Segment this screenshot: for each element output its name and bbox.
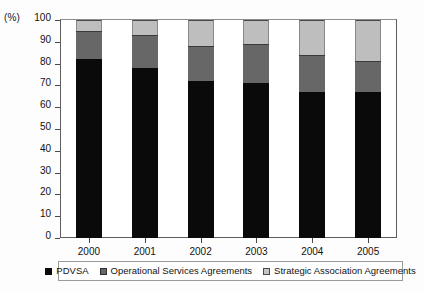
x-axis-tick-label: 2002 xyxy=(189,246,211,257)
bar-segment xyxy=(76,31,102,59)
legend-item[interactable]: Strategic Association Agreements xyxy=(263,266,416,276)
y-axis: 0102030405060708090100 xyxy=(0,0,60,238)
y-axis-tick-label: 10 xyxy=(40,209,51,219)
y-axis-tick-label: 60 xyxy=(40,100,51,110)
y-axis-tick-label: 50 xyxy=(40,122,51,132)
x-axis-tick-label: 2004 xyxy=(301,246,323,257)
bar-group xyxy=(229,20,285,238)
bar-segment xyxy=(76,59,102,238)
x-axis-tick-mark xyxy=(89,238,90,243)
y-axis-tick-label: 80 xyxy=(40,57,51,67)
legend-label: Operational Services Agreements xyxy=(111,266,253,276)
bar-group xyxy=(61,20,117,238)
bar-segment xyxy=(188,81,214,238)
bar-segment xyxy=(188,46,214,81)
stacked-bar-chart: (%) 0102030405060708090100 2000200120022… xyxy=(0,0,424,293)
y-axis-tick-label: 70 xyxy=(40,78,51,88)
bar-segment xyxy=(76,20,102,31)
y-axis-tick-label: 20 xyxy=(40,187,51,197)
y-axis-tick-label: 90 xyxy=(40,35,51,45)
y-axis-tick-label: 30 xyxy=(40,166,51,176)
bar-segment xyxy=(243,83,269,238)
bars-layer xyxy=(61,20,396,238)
bar-segment xyxy=(132,68,158,238)
legend-label: Strategic Association Agreements xyxy=(274,266,416,276)
bar-group xyxy=(173,20,229,238)
y-axis-tick-label: 100 xyxy=(34,13,51,23)
bar-segment xyxy=(299,55,325,92)
x-axis-tick-mark xyxy=(145,238,146,243)
x-axis-tick-label: 2005 xyxy=(357,246,379,257)
bar-segment xyxy=(355,20,381,61)
x-axis-tick-label: 2000 xyxy=(78,246,100,257)
bar-segment xyxy=(132,35,158,68)
x-axis-tick-mark xyxy=(312,238,313,243)
bar-segment xyxy=(188,20,214,46)
legend-swatch-icon xyxy=(263,268,270,275)
legend-swatch-icon xyxy=(100,268,107,275)
legend-label: PDVSA xyxy=(56,266,88,276)
bar-segment xyxy=(243,44,269,83)
x-axis: 200020012002200320042005 xyxy=(60,238,398,262)
bar-segment xyxy=(355,61,381,92)
legend-item[interactable]: PDVSA xyxy=(45,266,88,276)
legend-swatch-icon xyxy=(45,268,52,275)
chart-legend: PDVSAOperational Services AgreementsStra… xyxy=(58,261,403,281)
legend-item[interactable]: Operational Services Agreements xyxy=(100,266,253,276)
y-axis-tick-label: 40 xyxy=(40,144,51,154)
bar-group xyxy=(117,20,173,238)
x-axis-tick-mark xyxy=(201,238,202,243)
bar-segment xyxy=(299,92,325,238)
x-axis-tick-label: 2003 xyxy=(245,246,267,257)
x-axis-tick-label: 2001 xyxy=(134,246,156,257)
bar-group xyxy=(284,20,340,238)
y-axis-tick-label: 0 xyxy=(45,231,51,241)
bar-segment xyxy=(132,20,158,35)
bar-segment xyxy=(355,92,381,238)
x-axis-tick-mark xyxy=(256,238,257,243)
bar-group xyxy=(340,20,396,238)
bar-segment xyxy=(243,20,269,44)
x-axis-tick-mark xyxy=(368,238,369,243)
bar-segment xyxy=(299,20,325,55)
